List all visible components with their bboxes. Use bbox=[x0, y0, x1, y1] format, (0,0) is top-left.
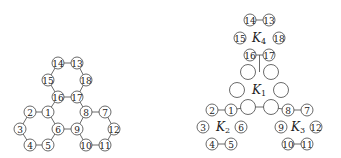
graph-node: 3 bbox=[197, 121, 209, 133]
node-label: 10 bbox=[282, 140, 294, 150]
node-label: 7 bbox=[304, 106, 310, 116]
graph-node: 11 bbox=[301, 138, 313, 150]
graph-node: 12 bbox=[310, 121, 322, 133]
graph-node: 11 bbox=[99, 139, 111, 151]
right-graph-component-labels: K4K1K2K3 bbox=[215, 31, 305, 135]
graph-node bbox=[241, 100, 256, 115]
graph-node bbox=[241, 65, 256, 80]
graph-node: 13 bbox=[263, 14, 275, 26]
graph-node: 7 bbox=[99, 106, 111, 118]
node-label: 15 bbox=[42, 76, 54, 86]
graph-node bbox=[264, 65, 279, 80]
node-label: 11 bbox=[301, 140, 312, 150]
component-label-k3: K3 bbox=[290, 120, 305, 135]
node-label: 2 bbox=[27, 108, 33, 118]
graph-node: 14 bbox=[52, 57, 64, 69]
graph-node: 15 bbox=[234, 32, 246, 44]
graph-figure: 141315181617218736912451011 141315181617… bbox=[0, 0, 341, 158]
graph-node: 18 bbox=[273, 32, 285, 44]
graph-node: 4 bbox=[206, 138, 218, 150]
component-label-k2: K2 bbox=[215, 120, 230, 135]
graph-node bbox=[230, 83, 245, 98]
graph-node: 2 bbox=[24, 106, 36, 118]
graph-node bbox=[264, 100, 279, 115]
graph-node: 8 bbox=[80, 106, 92, 118]
graph-node: 4 bbox=[24, 139, 36, 151]
node-label: 16 bbox=[244, 51, 256, 61]
node-label: 1 bbox=[45, 108, 51, 118]
node-label: 18 bbox=[273, 34, 285, 44]
node-label: 5 bbox=[228, 140, 234, 150]
node-label: 3 bbox=[200, 123, 206, 133]
graph-node: 7 bbox=[301, 104, 313, 116]
node-label: 18 bbox=[80, 76, 92, 86]
node-label: 13 bbox=[71, 59, 83, 69]
node-label: 17 bbox=[263, 51, 275, 61]
node-label: 1 bbox=[228, 106, 234, 116]
graph-node: 9 bbox=[71, 123, 83, 135]
graph-node: 15 bbox=[42, 74, 54, 86]
node-label: 5 bbox=[45, 141, 51, 151]
graph-node: 5 bbox=[42, 139, 54, 151]
node-label: 7 bbox=[102, 108, 108, 118]
graph-node: 1 bbox=[42, 106, 54, 118]
graph-node: 2 bbox=[206, 104, 218, 116]
graph-node: 17 bbox=[263, 49, 275, 61]
node-label: 17 bbox=[71, 93, 83, 103]
left-graph-edges bbox=[20, 63, 114, 145]
node-label: 4 bbox=[209, 140, 215, 150]
node-label: 14 bbox=[52, 59, 64, 69]
node-label: 6 bbox=[55, 125, 61, 135]
node-label: 15 bbox=[234, 34, 246, 44]
component-label-k4: K4 bbox=[251, 31, 266, 46]
graph-node: 14 bbox=[244, 14, 256, 26]
graph-node: 10 bbox=[80, 139, 92, 151]
graph-node: 16 bbox=[52, 91, 64, 103]
left-graph-nodes: 141315181617218736912451011 bbox=[14, 57, 120, 151]
node-label: 11 bbox=[99, 141, 110, 151]
graph-node: 9 bbox=[275, 121, 287, 133]
graph-node: 12 bbox=[108, 123, 120, 135]
node-label: 14 bbox=[244, 16, 256, 26]
graph-node: 6 bbox=[52, 123, 64, 135]
node-label: 3 bbox=[17, 125, 23, 135]
node-label: 8 bbox=[285, 106, 291, 116]
node-label: 13 bbox=[263, 16, 275, 26]
node-label: 8 bbox=[83, 108, 89, 118]
graph-node: 17 bbox=[71, 91, 83, 103]
graph-node: 18 bbox=[80, 74, 92, 86]
graph-node: 13 bbox=[71, 57, 83, 69]
graph-node: 16 bbox=[244, 49, 256, 61]
graph-node: 1 bbox=[225, 104, 237, 116]
node-label: 4 bbox=[27, 141, 33, 151]
graph-node: 10 bbox=[282, 138, 294, 150]
node-label: 2 bbox=[209, 106, 215, 116]
graph-node: 3 bbox=[14, 123, 26, 135]
graph-node: 5 bbox=[225, 138, 237, 150]
graph-node: 8 bbox=[282, 104, 294, 116]
node-label: 6 bbox=[238, 123, 244, 133]
node-label: 12 bbox=[310, 123, 321, 133]
graph-node bbox=[274, 83, 289, 98]
node-label: 9 bbox=[278, 123, 284, 133]
node-label: 12 bbox=[108, 125, 119, 135]
node-label: 10 bbox=[80, 141, 92, 151]
node-label: 9 bbox=[74, 125, 80, 135]
node-label: 16 bbox=[52, 93, 64, 103]
graph-node: 6 bbox=[235, 121, 247, 133]
component-label-k1: K1 bbox=[251, 83, 266, 98]
